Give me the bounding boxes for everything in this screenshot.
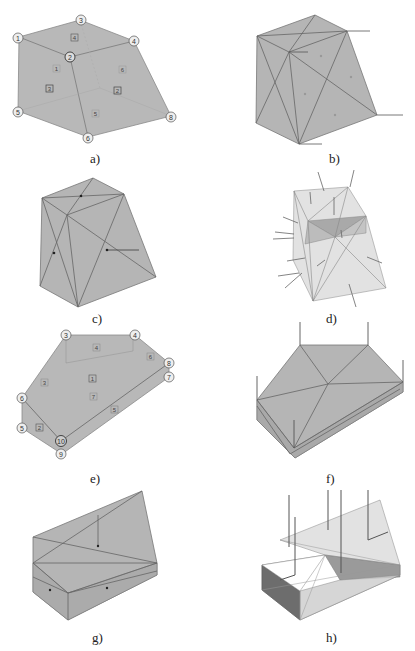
svg-text:3: 3	[64, 332, 68, 339]
block-diagram-h	[250, 485, 415, 630]
block-diagram-f	[250, 320, 415, 470]
panel-b: b)	[240, 0, 415, 185]
panel-a: 1 2 3 4 5 6 8 4 1 3 6 2 5 a)	[0, 0, 210, 185]
panel-d: d)	[250, 160, 415, 330]
block-diagram-b	[240, 0, 415, 160]
caption-h: h)	[326, 630, 337, 646]
svg-text:8: 8	[167, 360, 171, 367]
svg-text:4: 4	[133, 332, 137, 339]
svg-text:8: 8	[169, 114, 173, 121]
panel-h: h)	[250, 485, 415, 651]
block-diagram-a: 1 2 3 4 5 6 8 4 1 3 6 2 5	[0, 0, 210, 160]
svg-text:7: 7	[167, 374, 171, 381]
panel-e: 3 4 5 6 7 8 9 10 1 2 3 4 5 6 7 e)	[0, 320, 210, 490]
block-diagram-e: 3 4 5 6 7 8 9 10 1 2 3 4 5 6 7	[0, 320, 210, 470]
svg-text:6: 6	[20, 395, 24, 402]
svg-text:5: 5	[16, 109, 20, 116]
panel-g: g)	[0, 485, 210, 651]
svg-text:3: 3	[79, 17, 83, 24]
svg-text:2: 2	[68, 54, 72, 61]
svg-text:4: 4	[132, 38, 136, 45]
block-diagram-d	[250, 160, 415, 310]
svg-text:1: 1	[16, 35, 20, 42]
panel-f: f)	[250, 320, 415, 490]
block-diagram-c	[0, 160, 210, 310]
svg-text:5: 5	[20, 425, 24, 432]
caption-g: g)	[92, 630, 103, 646]
block-diagram-g	[0, 485, 210, 630]
svg-text:10: 10	[57, 438, 65, 445]
svg-text:6: 6	[86, 135, 90, 142]
svg-text:9: 9	[59, 451, 63, 458]
panel-c: c)	[0, 160, 210, 330]
